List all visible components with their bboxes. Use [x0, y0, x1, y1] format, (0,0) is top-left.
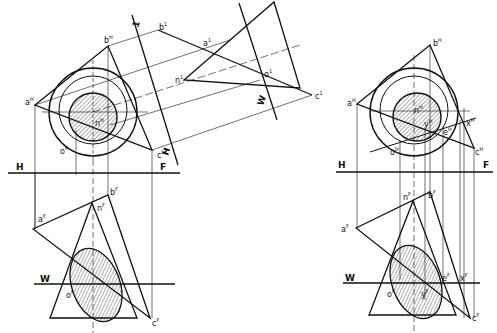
- label-fold-W: W: [40, 274, 50, 284]
- label-fold-F-right: F: [483, 160, 489, 170]
- label-xF-right: xF: [460, 272, 468, 283]
- label-bF-right: bF: [428, 189, 436, 200]
- label-cH-right: cH: [475, 146, 483, 157]
- label-fold-1w-W: W: [255, 94, 268, 107]
- left-labels: aH bH cH nH oH b1 a1 n1 o1 c1 H F W H 1 …: [16, 20, 323, 328]
- fold-line-h1: [132, 15, 178, 165]
- label-xH-right: xH: [466, 117, 475, 128]
- label-nF: nF: [97, 202, 105, 213]
- label-aF: aF: [38, 213, 46, 224]
- label-oF: oF: [66, 289, 74, 300]
- label-fold-W-right: W: [345, 273, 355, 283]
- label-fold-H-right: H: [338, 160, 346, 170]
- label-c1: c1: [315, 90, 323, 101]
- right-figure: [336, 45, 493, 333]
- label-fold-h1-H: H: [160, 146, 172, 156]
- label-fold-H: H: [16, 162, 24, 172]
- label-oH-right: oH: [390, 146, 399, 157]
- label-aH-right: aH: [347, 97, 356, 108]
- label-oH: oH: [60, 145, 69, 156]
- label-bH-right: bH: [433, 37, 442, 48]
- label-fold-F: F: [160, 162, 166, 172]
- label-eF-right: eF: [442, 272, 450, 283]
- right-front-view: [343, 192, 480, 326]
- label-oF-right: oF: [387, 288, 395, 299]
- label-bH: bH: [104, 34, 113, 45]
- right-hatched-ellipse: [380, 238, 451, 326]
- descriptive-geometry-drawing: aH bH cH nH oH b1 a1 n1 o1 c1 H F W H 1 …: [0, 0, 497, 333]
- label-aH: aH: [25, 96, 34, 107]
- right-hatched-section: [393, 93, 441, 141]
- label-fold-1: 1: [130, 20, 141, 29]
- label-nF-right: nF: [403, 191, 411, 202]
- left-hatched-ellipse: [60, 241, 131, 329]
- label-a1: a1: [203, 37, 211, 48]
- left-front-view: [33, 173, 175, 329]
- label-b1: b1: [159, 21, 167, 32]
- label-cF: cF: [152, 317, 159, 328]
- label-cF-right: cF: [472, 312, 479, 323]
- left-aux-view: [158, 2, 312, 120]
- label-aF-right: aF: [341, 223, 349, 234]
- label-bF: bF: [110, 186, 118, 197]
